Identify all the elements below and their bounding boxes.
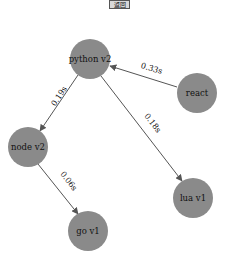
node-react[interactable]: react <box>177 73 217 113</box>
edge-python-lua: 0.18s <box>101 76 182 181</box>
edge-python-node: 0.19s <box>40 75 78 131</box>
edge-label: 0.19s <box>49 85 69 108</box>
node-python-v2[interactable]: python v2 <box>69 39 112 79</box>
edge-label: 0.33s <box>140 61 164 76</box>
node-go-v1[interactable]: go v1 <box>68 211 108 251</box>
edge-label: 0.18s <box>142 112 163 135</box>
node-lua-v1[interactable]: lua v1 <box>173 178 213 218</box>
edge-label: 0.06s <box>58 170 79 193</box>
node-label: lua v1 <box>180 193 206 203</box>
node-label: go v1 <box>76 226 99 236</box>
edge-node-go: 0.06s <box>38 164 79 214</box>
node-node-v2[interactable]: node v2 <box>8 127 48 167</box>
node-label: python v2 <box>69 54 112 64</box>
edge-react-python: 0.33s <box>110 61 177 87</box>
node-label: node v2 <box>11 142 45 152</box>
node-label: react <box>186 88 209 98</box>
dependency-graph: 0.33s 0.19s 0.18s 0.06s python v2 react … <box>0 0 225 257</box>
